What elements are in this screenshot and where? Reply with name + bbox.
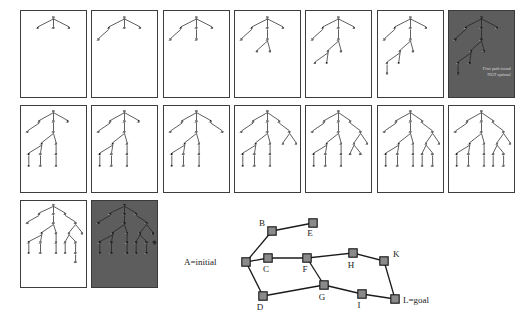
tree-node-label: H bbox=[54, 232, 56, 235]
tree-node-label: I bbox=[252, 153, 253, 156]
tree-node-label: I bbox=[294, 143, 295, 146]
tree-node-label: C bbox=[265, 27, 267, 30]
tree-node-label: A bbox=[456, 72, 458, 75]
tree-node-label: H bbox=[125, 143, 127, 146]
tree-node-label: D bbox=[495, 27, 497, 30]
panel-tree-svg: ABCDE bbox=[92, 11, 157, 97]
tree-edge bbox=[252, 19, 268, 27]
tree-node-label: A bbox=[408, 110, 410, 113]
tree-edge bbox=[54, 19, 70, 27]
tree-edge bbox=[400, 41, 410, 50]
tree-node-label: C bbox=[123, 27, 125, 30]
tree-edge bbox=[254, 145, 255, 153]
tree-edge bbox=[397, 145, 398, 153]
tree-edge bbox=[313, 29, 323, 38]
tree-node-label: G bbox=[145, 222, 147, 225]
tree-node-label: C bbox=[51, 121, 53, 124]
tree-node-label: C bbox=[51, 213, 53, 216]
graph-svg: A=initialBECFHKDGIL=goal bbox=[178, 200, 511, 325]
graph-node-label: L=goal bbox=[403, 295, 430, 305]
tree-node-label: A bbox=[134, 252, 136, 255]
first-path-annotation-line1: First path found bbox=[483, 66, 511, 72]
tree-edge bbox=[29, 235, 42, 242]
search-tree-panel: ABCDEFGH bbox=[234, 10, 301, 98]
tree-node-label: B bbox=[250, 27, 252, 30]
tree-node-label: B bbox=[465, 121, 467, 124]
tree-edge bbox=[361, 133, 368, 142]
tree-edge bbox=[136, 235, 140, 242]
tree-node-label: G bbox=[359, 131, 361, 134]
tree-edge bbox=[125, 19, 141, 27]
graph-node-label: G bbox=[319, 292, 326, 302]
tree-edge bbox=[422, 123, 432, 131]
tree-node bbox=[480, 39, 482, 41]
tree-node-label: H bbox=[501, 153, 503, 156]
tree-edge bbox=[41, 145, 42, 153]
tree-node-label: C bbox=[419, 153, 421, 156]
tree-edge bbox=[457, 145, 470, 153]
tree-node-label: C bbox=[194, 121, 196, 124]
tree-node-label: C bbox=[63, 242, 65, 245]
tree-node-label: G bbox=[40, 143, 42, 146]
tree-edge bbox=[99, 215, 111, 222]
tree-edge bbox=[503, 133, 510, 142]
tree-node-label: H bbox=[73, 242, 75, 245]
tree-node-label: D bbox=[456, 62, 458, 65]
search-tree-panel: ABCDEFGGHFIDIKCHALLAK bbox=[377, 105, 444, 193]
tree-node-label: I bbox=[467, 62, 468, 65]
tree-node bbox=[469, 62, 471, 64]
tree-node bbox=[254, 153, 256, 155]
tree-edge bbox=[110, 113, 124, 121]
tree-node-label: C bbox=[491, 153, 493, 156]
graph-node bbox=[358, 290, 366, 298]
tree-edge bbox=[110, 206, 124, 213]
tree-node-label: D bbox=[208, 121, 210, 124]
tree-node-label: H bbox=[196, 143, 198, 146]
tree-edge bbox=[410, 133, 413, 142]
tree-node-label: I bbox=[396, 62, 397, 65]
graph-node bbox=[303, 254, 311, 262]
tree-node-label: C bbox=[408, 121, 410, 124]
tree-node-label: H bbox=[410, 143, 412, 146]
tree-node-label: A bbox=[123, 204, 125, 207]
search-tree-panel: ABCDEFGGHFIDIKCHALL bbox=[305, 105, 372, 193]
tree-node-label: A bbox=[27, 252, 29, 255]
tree-edge bbox=[327, 53, 328, 62]
tree-node-label: G bbox=[40, 232, 42, 235]
tree-node-label: G bbox=[182, 143, 184, 146]
tree-edge bbox=[109, 19, 125, 27]
tree-edge bbox=[455, 29, 465, 38]
tree-edge bbox=[426, 133, 433, 142]
tree-node-label: B bbox=[180, 121, 182, 124]
tree-edge bbox=[69, 235, 76, 242]
tree-edge bbox=[267, 19, 283, 27]
tree-node-label: A bbox=[479, 16, 481, 19]
tree-edge bbox=[196, 113, 210, 121]
tree-edge bbox=[481, 41, 484, 50]
tree-node-label: I bbox=[38, 242, 39, 245]
tree-node-label: C bbox=[194, 27, 196, 30]
tree-node-label: A bbox=[169, 165, 171, 168]
tree-edge bbox=[54, 133, 57, 142]
tree-edge bbox=[314, 145, 327, 153]
graph-node bbox=[259, 292, 267, 300]
tree-edge bbox=[385, 145, 398, 153]
tree-edge bbox=[327, 133, 339, 142]
tree-edge bbox=[147, 225, 154, 233]
tree-node-label: G bbox=[73, 222, 75, 225]
panel-tree-svg: ABCDEFGGHFIDIKCHALL bbox=[306, 106, 371, 192]
tree-node-label: K bbox=[54, 153, 56, 156]
tree-node-label: D bbox=[313, 62, 315, 65]
tree-node-label: K bbox=[268, 153, 270, 156]
tree-edge bbox=[339, 19, 355, 27]
tree-edge bbox=[241, 123, 253, 131]
tree-edge bbox=[42, 225, 54, 233]
tree-edge bbox=[471, 41, 481, 50]
tree-node bbox=[195, 39, 197, 41]
tree-edge bbox=[481, 113, 493, 121]
tree-edge bbox=[76, 225, 83, 233]
panel-tree-svg: ABCDEFGH bbox=[235, 11, 300, 97]
tree-node-label: H bbox=[339, 143, 341, 146]
tree-node-label: C bbox=[336, 121, 338, 124]
tree-node-label: I bbox=[80, 232, 81, 235]
